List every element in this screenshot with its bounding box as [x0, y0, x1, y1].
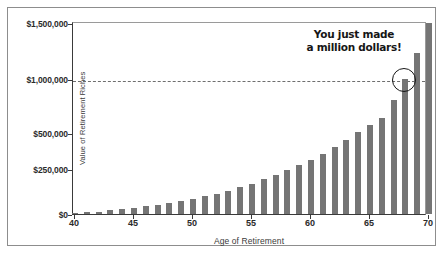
bar — [343, 140, 349, 214]
bar — [391, 100, 397, 214]
bar — [166, 203, 172, 214]
annotation-line-2: a million dollars! — [296, 41, 412, 54]
x-axis-tick-label: 50 — [187, 218, 197, 228]
x-axis-tick-mark — [428, 215, 429, 219]
bar — [367, 125, 373, 214]
bar — [131, 208, 137, 214]
million-highlight-circle — [392, 68, 416, 92]
x-axis-tick-mark — [369, 215, 370, 219]
y-axis-tick-label: $1,500,000 — [26, 19, 68, 29]
bar — [107, 210, 113, 214]
bar — [202, 196, 208, 214]
bar — [190, 199, 196, 214]
bar — [261, 179, 267, 214]
bar — [426, 23, 432, 214]
y-axis-tick-label: $1,000,000 — [26, 75, 68, 85]
bar — [402, 79, 408, 214]
bar — [119, 209, 125, 214]
bar — [214, 194, 220, 214]
x-axis-tick-label: 70 — [423, 218, 433, 228]
x-axis-tick-label: 45 — [128, 218, 138, 228]
x-axis-tick-label: 60 — [305, 218, 315, 228]
y-axis-tick-label: $250,000 — [33, 165, 68, 175]
y-axis-tick-label: $0 — [59, 210, 68, 220]
bar — [355, 132, 361, 214]
y-axis-tick-label: $500,000 — [33, 129, 68, 139]
bar — [320, 154, 326, 214]
x-axis-tick-label: 55 — [246, 218, 256, 228]
x-axis-tick-label: 65 — [364, 218, 374, 228]
bar — [178, 201, 184, 214]
x-axis-tick-mark — [133, 215, 134, 219]
annotation-text: You just made a million dollars! — [296, 28, 412, 54]
bar — [308, 160, 314, 214]
x-axis-tick-mark — [310, 215, 311, 219]
bar — [225, 191, 231, 214]
y-axis-label: Value of Retirement Riches — [78, 22, 87, 215]
bar — [332, 147, 338, 214]
x-axis-tick-mark — [251, 215, 252, 219]
x-axis-tick-mark — [192, 215, 193, 219]
chart-figure: $0$250,000$500,000$1,000,000$1,500,000 4… — [0, 0, 444, 256]
bar — [379, 118, 385, 214]
annotation-line-1: You just made — [296, 28, 412, 41]
x-axis-tick-mark — [74, 215, 75, 219]
x-axis-label: Age of Retirement — [72, 236, 426, 246]
bar — [284, 170, 290, 214]
bar — [143, 206, 149, 214]
bar — [273, 175, 279, 214]
bar — [296, 165, 302, 214]
x-axis-tick-label: 40 — [69, 218, 79, 228]
y-axis-tick-mark — [68, 215, 72, 216]
bar — [237, 187, 243, 214]
bar — [96, 212, 102, 215]
bar — [155, 205, 161, 214]
bar — [249, 184, 255, 214]
